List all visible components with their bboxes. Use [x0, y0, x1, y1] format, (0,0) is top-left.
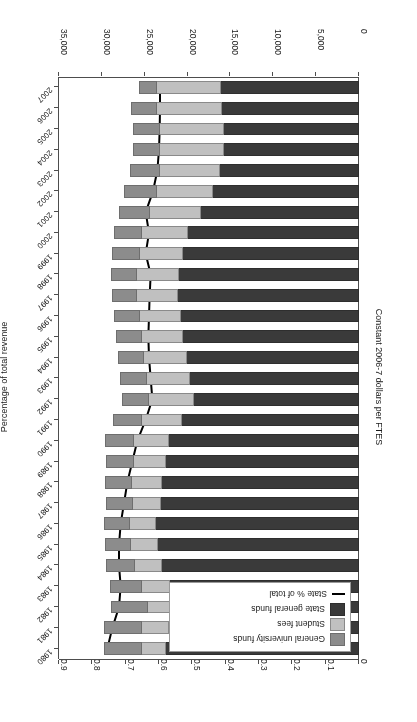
primary-axis-title: Constant 2006-7 dollars per FTES	[374, 277, 384, 477]
dollar-tick-label: 10,000	[273, 29, 283, 55]
percent-tick-label: 0.2	[292, 659, 302, 671]
chart-legend: General university funds Student fees St…	[169, 582, 351, 652]
bar-segment	[159, 123, 224, 136]
year-label: 1996	[35, 314, 54, 333]
year-tick	[54, 648, 58, 649]
year-tick	[54, 190, 58, 191]
year-tick	[54, 398, 58, 399]
bar-group	[59, 185, 359, 198]
bar-group	[59, 81, 359, 94]
bar-segment	[159, 164, 221, 177]
plot-area: 1980198119821983198419851986198719881989…	[59, 77, 359, 659]
dollar-tick	[101, 72, 102, 76]
year-tick	[54, 606, 58, 607]
bar-group	[59, 476, 359, 489]
dollar-tick	[272, 72, 273, 76]
year-label: 1982	[35, 605, 54, 624]
bar-group	[59, 393, 359, 406]
secondary-axis-line	[59, 659, 359, 660]
year-label: 1997	[35, 294, 54, 313]
bar-segment	[220, 81, 359, 94]
bar-segment	[165, 455, 359, 468]
bar-segment	[139, 310, 181, 323]
bar-segment	[200, 206, 359, 219]
year-label: 1980	[35, 647, 54, 666]
bar-segment	[111, 268, 138, 281]
year-tick	[54, 211, 58, 212]
year-label: 1983	[35, 585, 54, 604]
legend-item-state-percent-of-total: State % of total	[175, 587, 345, 602]
year-tick	[54, 502, 58, 503]
bar-segment	[130, 538, 157, 551]
bar-segment	[130, 164, 159, 177]
percent-tick-label: 0.7	[126, 659, 136, 671]
bar-segment	[212, 185, 359, 198]
bar-segment	[112, 289, 138, 302]
bar-segment	[223, 143, 359, 156]
year-tick	[54, 481, 58, 482]
year-tick	[54, 107, 58, 108]
dollar-tick-label: 5,000	[316, 29, 326, 50]
bar-segment	[110, 580, 142, 593]
year-label: 1990	[35, 439, 54, 458]
dollar-tick-label: 0	[359, 29, 369, 34]
bar-group	[59, 310, 359, 323]
bar-segment	[141, 580, 170, 593]
year-tick	[54, 357, 58, 358]
bar-segment	[106, 497, 133, 510]
bar-segment	[114, 310, 140, 323]
bar-segment	[131, 476, 162, 489]
bar-segment	[159, 143, 223, 156]
bar-segment	[182, 330, 359, 343]
legend-swatch-state-general-funds	[330, 603, 345, 616]
year-tick	[54, 461, 58, 462]
dollar-tick	[229, 72, 230, 76]
year-label: 2003	[35, 169, 54, 188]
legend-item-general-university-funds: General university funds	[175, 632, 345, 647]
bar-segment	[143, 351, 187, 364]
bar-group	[59, 414, 359, 427]
year-label: 1992	[35, 398, 54, 417]
year-tick	[54, 128, 58, 129]
year-label: 2005	[35, 127, 54, 146]
year-tick	[54, 149, 58, 150]
year-label: 1986	[35, 522, 54, 541]
year-label: 1995	[35, 335, 54, 354]
bar-segment	[156, 102, 222, 115]
year-label: 2001	[35, 210, 54, 229]
bar-segment	[180, 310, 359, 323]
percent-tick-label: 0.4	[226, 659, 236, 671]
bar-segment	[219, 164, 359, 177]
year-tick	[54, 523, 58, 524]
bar-segment	[134, 559, 162, 572]
percent-tick-label: 0.3	[259, 659, 269, 671]
year-label: 2006	[35, 107, 54, 126]
bar-group	[59, 538, 359, 551]
bar-segment	[156, 185, 213, 198]
bar-segment	[182, 247, 359, 260]
bar-segment	[178, 268, 359, 281]
bar-segment	[133, 455, 166, 468]
bar-segment	[111, 601, 148, 614]
legend-line-state-percent-of-total	[332, 589, 345, 600]
bar-segment	[131, 102, 157, 115]
year-label: 1988	[35, 481, 54, 500]
dollar-tick-label: 25,000	[145, 29, 155, 55]
year-tick	[54, 336, 58, 337]
bar-segment	[133, 123, 160, 136]
year-label: 1981	[35, 626, 54, 645]
bar-group	[59, 372, 359, 385]
legend-swatch-general-university-funds	[330, 633, 345, 646]
bar-segment	[223, 123, 359, 136]
bar-segment	[141, 414, 182, 427]
bar-segment	[193, 393, 359, 406]
bar-segment	[141, 642, 167, 655]
year-tick	[54, 419, 58, 420]
bar-segment	[148, 393, 193, 406]
bar-segment	[105, 538, 132, 551]
year-label: 2000	[35, 231, 54, 250]
percent-tick-label: 0.5	[192, 659, 202, 671]
year-tick	[54, 377, 58, 378]
year-label: 1994	[35, 356, 54, 375]
bar-segment	[113, 414, 141, 427]
